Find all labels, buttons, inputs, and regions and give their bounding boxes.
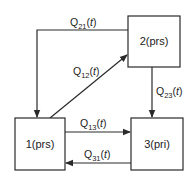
- arrow-q12: [50, 55, 127, 118]
- label-q31: Q31(t): [84, 148, 110, 163]
- node-2: 2(prs): [128, 16, 180, 67]
- node-1-label: 1(prs): [26, 138, 55, 150]
- edge-1-to-2: Q12(t): [50, 55, 127, 118]
- edge-2-to-3: Q23(t): [152, 67, 182, 117]
- label-q13: Q13(t): [80, 117, 106, 132]
- label-q12: Q12(t): [73, 65, 99, 80]
- node-3: 3(pri): [131, 118, 183, 170]
- transition-diagram: Q21(t) Q12(t) Q23(t) Q13(t) Q31(t) 2(prs…: [0, 0, 193, 181]
- node-2-label: 2(prs): [140, 35, 169, 47]
- label-q23: Q23(t): [156, 85, 182, 100]
- label-q21: Q21(t): [70, 16, 96, 31]
- edge-2-to-1: Q21(t): [37, 16, 128, 117]
- edge-3-to-1: Q31(t): [66, 148, 131, 163]
- node-3-label: 3(pri): [144, 138, 170, 150]
- edge-1-to-3: Q13(t): [65, 117, 130, 132]
- node-1: 1(prs): [15, 118, 65, 170]
